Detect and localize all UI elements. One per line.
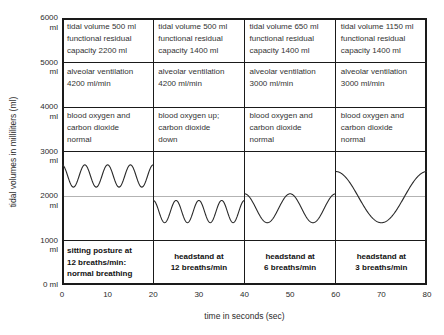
y-axis-title: tidal volumes in milliliters (ml) xyxy=(8,97,18,208)
x-tick-label: 80 xyxy=(412,290,442,299)
x-tick-label: 0 xyxy=(47,290,77,299)
y-tick-label: 3000 ml xyxy=(24,147,58,166)
x-tick-label: 20 xyxy=(138,290,168,299)
breathing-wave-panel-4 xyxy=(336,172,427,223)
blood-cell-panel-3: blood oxygen and carbon dioxide normal xyxy=(250,110,332,146)
condition-cell-panel-4: headstand at 3 breaths/min xyxy=(336,242,427,284)
y-tick-label: 1000 ml xyxy=(24,236,58,255)
y-tick-label: 6000 ml xyxy=(24,13,58,32)
breathing-wave-panel-1 xyxy=(62,165,153,187)
tidal-cell-panel-1: tidal volume 500 ml functional residual … xyxy=(67,21,149,57)
ventilation-cell-panel-3: alveolar ventilation 3000 ml/min xyxy=(250,66,332,90)
condition-cell-panel-3: headstand at 6 breaths/min xyxy=(245,242,336,284)
y-tick-label: 4000 ml xyxy=(24,102,58,121)
x-tick-label: 50 xyxy=(275,290,305,299)
condition-cell-panel-2: headstand at 12 breaths/min xyxy=(153,242,244,284)
ventilation-cell-panel-2: alveolar ventilation 4200 ml/min xyxy=(158,66,240,90)
ventilation-cell-panel-4: alveolar ventilation 3000 ml/min xyxy=(341,66,423,90)
condition-cell-panel-1: sitting posture at 12 breaths/min: norma… xyxy=(62,242,153,284)
breathing-wave-panel-3 xyxy=(245,194,336,223)
y-tick-label: 5000 ml xyxy=(24,58,58,77)
breathing-wave-panel-2 xyxy=(153,200,244,222)
blood-cell-panel-1: blood oxygen and carbon dioxide normal xyxy=(67,110,149,146)
tidal-cell-panel-4: tidal volume 1150 ml functional residual… xyxy=(341,21,423,57)
x-axis-title: time in seconds (sec) xyxy=(62,311,427,321)
x-tick-label: 40 xyxy=(230,290,260,299)
blood-cell-panel-2: blood oxygen up; carbon dioxide down xyxy=(158,110,240,146)
x-tick-label: 10 xyxy=(93,290,123,299)
respiration-tidal-volume-figure: tidal volumes in milliliters (ml) time i… xyxy=(0,0,444,335)
blood-cell-panel-4: blood oxygen and carbon dioxide normal xyxy=(341,110,423,146)
tidal-cell-panel-2: tidal volume 500 ml functional residual … xyxy=(158,21,240,57)
x-tick-label: 60 xyxy=(321,290,351,299)
ventilation-cell-panel-1: alveolar ventilation 4200 ml/min xyxy=(67,66,149,90)
x-tick-label: 30 xyxy=(184,290,214,299)
tidal-cell-panel-3: tidal volume 650 ml functional residual … xyxy=(250,21,332,57)
x-tick-label: 70 xyxy=(366,290,396,299)
y-tick-label: 2000 ml xyxy=(24,191,58,210)
y-tick-label: 0 ml xyxy=(24,280,58,290)
